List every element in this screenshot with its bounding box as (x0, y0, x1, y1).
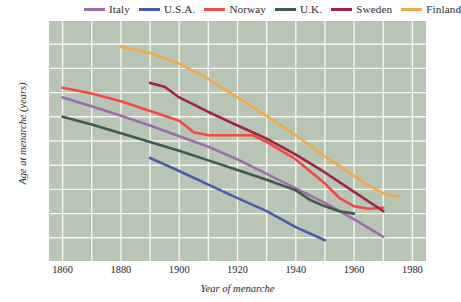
series-line-finland (121, 47, 398, 197)
chart-svg (48, 20, 427, 262)
gridlines (48, 20, 427, 262)
x-tick-label: 1860 (33, 264, 93, 275)
x-tick-label: 1900 (149, 264, 209, 275)
x-axis-title: Year of menarche (48, 283, 427, 294)
x-tick-label: 1980 (382, 264, 442, 275)
x-tick-label: 1960 (324, 264, 384, 275)
plot-area (48, 20, 427, 262)
x-tick-label: 1920 (208, 264, 268, 275)
x-tick-label: 1880 (91, 264, 151, 275)
x-tick-label: 1940 (266, 264, 326, 275)
